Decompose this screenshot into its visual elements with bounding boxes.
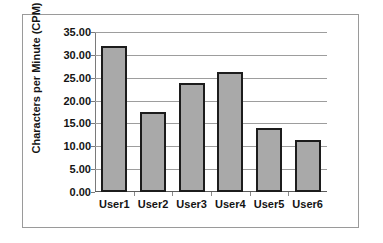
x-axis-tick-mark xyxy=(288,192,289,196)
y-axis-tick-label: 20.00 xyxy=(48,95,91,107)
y-axis-tick-label: 10.00 xyxy=(48,140,91,152)
y-axis-tick-label: 30.00 xyxy=(48,49,91,61)
x-axis-tick-label: User2 xyxy=(138,198,169,210)
bar[interactable] xyxy=(140,112,166,192)
bar[interactable] xyxy=(179,83,205,192)
x-axis-tick-label: User5 xyxy=(254,198,285,210)
x-axis-tick-mark xyxy=(211,192,212,196)
y-axis-tick-mark xyxy=(91,192,95,193)
x-axis-tick-label: User4 xyxy=(215,198,246,210)
bar-slot xyxy=(179,32,205,192)
y-axis-tick-label: 25.00 xyxy=(48,72,91,84)
y-axis-tick-mark xyxy=(91,146,95,147)
y-axis-tick-label: 5.00 xyxy=(48,163,91,175)
bar[interactable] xyxy=(295,140,321,192)
bar-slot xyxy=(217,32,243,192)
y-axis-tick-mark xyxy=(91,55,95,56)
x-axis-tick-mark xyxy=(172,192,173,196)
y-axis-tick-mark xyxy=(91,32,95,33)
y-axis-tick-label: 0.00 xyxy=(48,186,91,198)
y-axis-tick-mark xyxy=(91,123,95,124)
bar-series xyxy=(95,32,327,192)
y-axis-tick-mark xyxy=(91,78,95,79)
y-axis-title: Characters per Minute (CPM) xyxy=(30,0,42,158)
x-axis-tick-label: User6 xyxy=(292,198,323,210)
bar-slot xyxy=(256,32,282,192)
x-axis-tick-label: User3 xyxy=(176,198,207,210)
x-axis-tick-labels: User1User2User3User4User5User6 xyxy=(95,198,327,218)
bar[interactable] xyxy=(256,128,282,192)
y-axis-tick-mark xyxy=(91,169,95,170)
y-axis-tick-labels: 0.005.0010.0015.0020.0025.0030.0035.00 xyxy=(48,26,91,198)
chart-figure: Characters per Minute (CPM) 0.005.0010.0… xyxy=(0,0,383,243)
y-axis-tick-label: 15.00 xyxy=(48,117,91,129)
y-axis-tick-mark xyxy=(91,101,95,102)
bar-slot xyxy=(140,32,166,192)
bar-slot xyxy=(101,32,127,192)
bar[interactable] xyxy=(217,72,243,192)
y-axis-tick-label: 35.00 xyxy=(48,26,91,38)
plot-area xyxy=(95,32,327,192)
x-axis-tick-mark xyxy=(134,192,135,196)
bar-slot xyxy=(295,32,321,192)
x-axis-tick-mark xyxy=(250,192,251,196)
bar[interactable] xyxy=(101,46,127,192)
x-axis-tick-label: User1 xyxy=(99,198,130,210)
